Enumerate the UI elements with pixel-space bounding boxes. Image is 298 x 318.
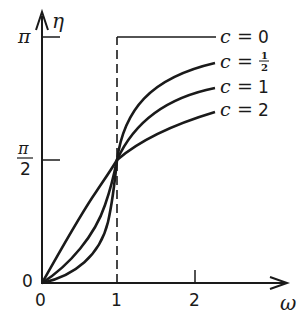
svg-text:=: = <box>237 75 253 97</box>
curve-c1 <box>42 88 215 283</box>
y-tick-label-pi-half-num: π <box>17 139 29 158</box>
svg-text:1: 1 <box>261 50 268 61</box>
legend-c1: c = 1 <box>220 75 269 97</box>
svg-text:c: c <box>220 25 231 47</box>
legend-c2: c = 2 <box>220 98 269 120</box>
y-tick-label-pi-half-den: 2 <box>20 159 31 179</box>
svg-text:c: c <box>220 75 231 97</box>
y-tick-label-zero: 0 <box>22 271 33 291</box>
legend-c0: c = 0 <box>220 25 269 47</box>
svg-text:=: = <box>237 50 253 72</box>
svg-text:0: 0 <box>258 27 269 47</box>
x-axis-label: ω <box>280 291 296 315</box>
y-tick-label-pi: π <box>17 25 31 47</box>
x-tick-label-1: 1 <box>111 290 122 310</box>
svg-text:=: = <box>237 98 253 120</box>
svg-text:1: 1 <box>258 77 269 97</box>
svg-text:2: 2 <box>258 100 269 120</box>
svg-text:c: c <box>220 98 231 120</box>
y-axis-label: η <box>52 9 64 33</box>
legend-c-half: c = 1 2 <box>220 50 269 73</box>
svg-text:=: = <box>237 25 253 47</box>
x-tick-label-2: 2 <box>189 290 200 310</box>
svg-text:2: 2 <box>261 62 268 73</box>
x-tick-label-0: 0 <box>35 290 46 310</box>
svg-text:c: c <box>220 50 231 72</box>
chart-canvas: η ω π π 2 0 0 1 2 c = 0 c = 1 2 c = 1 c … <box>0 0 298 318</box>
